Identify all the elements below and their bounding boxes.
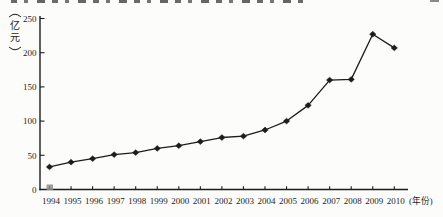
data-point xyxy=(68,159,74,165)
line-chart: 0501001502002501994199519961997199819992… xyxy=(0,0,443,217)
x-axis-unit-label: (年份) xyxy=(409,195,433,206)
clipped-title-fragment-right xyxy=(430,0,439,2)
data-point xyxy=(133,150,139,156)
y-tick-label: 150 xyxy=(23,82,37,92)
data-point xyxy=(262,127,268,133)
data-point xyxy=(46,164,52,170)
x-tick-label: 2007 xyxy=(322,196,341,206)
x-tick-label: 1995 xyxy=(64,196,83,206)
x-tick-label: 2001 xyxy=(193,196,211,206)
data-point xyxy=(197,139,203,145)
y-tick-label: 0 xyxy=(32,185,37,195)
x-tick-label: 2003 xyxy=(236,196,255,206)
y-axis-unit-char: 亿 xyxy=(10,19,20,31)
y-axis-unit-open-paren xyxy=(9,14,21,17)
data-point xyxy=(219,135,225,141)
x-tick-label: 1994 xyxy=(42,196,61,206)
x-tick-label: 2005 xyxy=(279,196,298,206)
clipped-title-fragments xyxy=(11,0,303,3)
x-tick-label: 2008 xyxy=(344,196,363,206)
y-axis-unit-close-paren xyxy=(9,47,21,50)
data-point xyxy=(111,152,117,158)
x-tick-label: 2006 xyxy=(301,196,320,206)
x-tick-label: 1997 xyxy=(107,196,126,206)
data-point xyxy=(89,156,95,162)
data-point xyxy=(154,146,160,152)
y-tick-label: 250 xyxy=(23,14,37,24)
x-tick-label: 1996 xyxy=(85,196,104,206)
y-tick-label: 200 xyxy=(23,48,37,58)
data-point xyxy=(348,76,354,82)
data-point xyxy=(176,143,182,149)
x-tick-label: 1999 xyxy=(150,196,169,206)
origin-artifact-square xyxy=(47,185,54,191)
y-axis-unit-char: 元 xyxy=(10,32,20,43)
data-line xyxy=(50,34,395,167)
statistical-line-chart-figure: 0501001502002501994199519961997199819992… xyxy=(0,0,443,217)
x-tick-label: 2000 xyxy=(171,196,190,206)
y-tick-label: 50 xyxy=(28,151,38,161)
x-tick-label: 1998 xyxy=(128,196,147,206)
data-point xyxy=(240,133,246,139)
x-tick-label: 2002 xyxy=(214,196,232,206)
y-tick-label: 100 xyxy=(23,116,37,126)
x-tick-label: 2010 xyxy=(387,196,406,206)
x-tick-label: 2004 xyxy=(258,196,277,206)
x-tick-label: 2009 xyxy=(365,196,384,206)
